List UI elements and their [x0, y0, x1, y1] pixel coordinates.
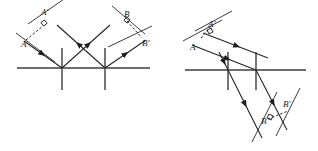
point-label-a: A — [189, 42, 196, 52]
point-label-b-prime: B' — [283, 99, 291, 109]
right-angle-mark-A-prime — [41, 20, 47, 26]
point-label-b: B — [124, 9, 130, 19]
ray-diagram-figure: AA'BB'AA'BB' Reflection of a light beam … — [0, 0, 318, 151]
incident-ray-upper — [203, 33, 268, 58]
tilted-mirrors-parallel-configuration: AA'BB' — [183, 11, 306, 142]
dashed-A-to-A-prime — [26, 26, 43, 40]
ray-through-left — [219, 52, 228, 70]
right-angle-mark-B — [267, 114, 273, 120]
reflected-ray-2 — [57, 25, 105, 68]
point-label-a-prime: A' — [207, 19, 216, 29]
reflected-ray-1 — [62, 25, 110, 68]
point-label-a: A — [20, 39, 27, 49]
diagram-geometry-group: AA'BB'AA'BB' — [16, 0, 306, 142]
incident-ray-A — [192, 45, 256, 70]
incident-ray-A — [24, 41, 62, 68]
perpendicular-mirrors-v-configuration: AA'BB' — [16, 0, 152, 90]
wavefront-B-prime — [276, 88, 300, 136]
point-label-b: B — [261, 116, 267, 126]
point-label-b-prime: B' — [142, 38, 150, 48]
ray-diagram-canvas: AA'BB'AA'BB' — [0, 0, 318, 151]
point-label-a-prime: A' — [40, 7, 49, 17]
